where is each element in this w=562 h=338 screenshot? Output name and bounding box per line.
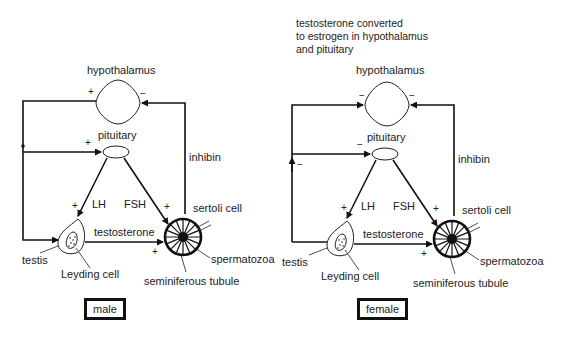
fsh-sign: + xyxy=(433,203,439,214)
male-caption-box: male xyxy=(84,298,126,320)
seminiferous-tubule-shape xyxy=(434,221,470,257)
sertoli-label: sertoli cell xyxy=(193,202,242,214)
lh-label: LH xyxy=(361,200,375,212)
sertoli-label: sertoli cell xyxy=(462,204,511,216)
pituitary-left-sign: + xyxy=(85,137,91,148)
hypothalamus-right-sign: − xyxy=(409,90,415,101)
testosterone-label: testosterone xyxy=(94,226,155,238)
inhibin-label: inhibin xyxy=(458,153,490,165)
pituitary-left-sign: − xyxy=(357,139,363,150)
note-line-1: testosterone converted xyxy=(296,17,403,29)
fsh-arrow xyxy=(124,158,168,224)
lh-sign: + xyxy=(72,200,78,211)
loop-left-sign: − xyxy=(297,159,303,170)
testosterone-sign: + xyxy=(152,246,158,257)
inhibin-loop xyxy=(411,105,454,216)
note-line-3: and pituitary xyxy=(296,43,354,55)
hypothalamus-left-sign: − xyxy=(359,90,365,101)
lh-label: LH xyxy=(92,198,106,210)
fsh-sign: + xyxy=(164,201,170,212)
hypothalamus-label: hypothalamus xyxy=(87,64,156,76)
fsh-label: FSH xyxy=(124,198,146,210)
inhibin-label: inhibin xyxy=(189,151,221,163)
testis-label: testis xyxy=(22,254,48,266)
inhibin-loop xyxy=(142,103,185,214)
feedback-loop-left xyxy=(292,105,363,242)
pituitary-shape xyxy=(372,148,398,160)
leydig-label: Leyding cell xyxy=(61,268,119,280)
spermatozoa-label: spermatozoa xyxy=(211,253,275,265)
hypothalamus-label: hypothalamus xyxy=(356,64,425,76)
leydig-label: Leyding cell xyxy=(321,270,379,282)
hypothalamus-shape xyxy=(96,80,140,124)
note-line-2: to estrogen in hypothalamus xyxy=(296,30,428,42)
female-panel: testosterone converted to estrogen in hy… xyxy=(282,17,544,289)
hypothalamus-right-sign: − xyxy=(140,88,146,99)
male-panel: hypothalamus + − pituitary + inhibin LH … xyxy=(21,64,275,287)
pituitary-shape xyxy=(103,146,129,158)
tubule-label: seminiferous tubule xyxy=(413,277,508,289)
lh-sign: + xyxy=(341,202,347,213)
testosterone-label: testosterone xyxy=(363,228,424,240)
testis-label: testis xyxy=(282,256,308,268)
hormone-feedback-diagram: hypothalamus + − pituitary + inhibin LH … xyxy=(0,0,562,338)
feedback-loop-left xyxy=(23,101,96,240)
female-caption-box: female xyxy=(357,298,408,320)
hypothalamus-shape xyxy=(365,82,409,126)
hypothalamus-left-sign: + xyxy=(88,86,94,97)
spermatozoa-label: spermatozoa xyxy=(480,255,544,267)
tubule-label: seminiferous tubule xyxy=(144,275,239,287)
fsh-arrow xyxy=(393,160,437,226)
pituitary-label: pituitary xyxy=(98,129,137,141)
fsh-label: FSH xyxy=(393,200,415,212)
seminiferous-tubule-shape xyxy=(165,219,201,255)
testosterone-sign: + xyxy=(421,248,427,259)
pituitary-label: pituitary xyxy=(367,131,406,143)
